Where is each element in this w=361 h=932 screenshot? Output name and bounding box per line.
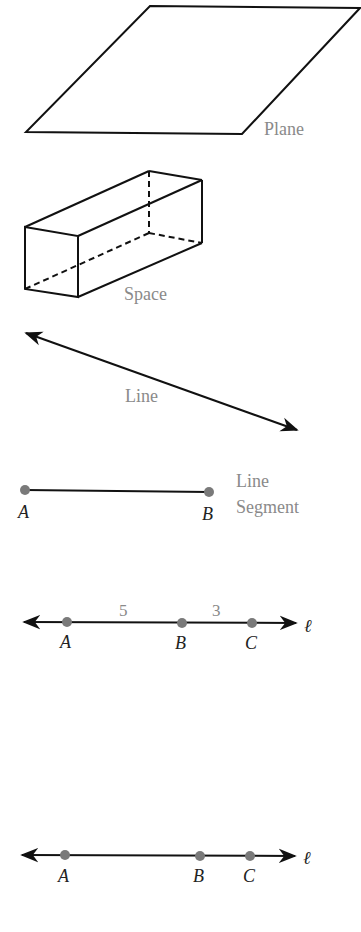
number-line-2: A B C ℓ: [22, 848, 311, 886]
nl2-point-a: A: [57, 866, 70, 886]
point-a-dot: [20, 485, 30, 495]
geometry-figures: Plane Space Line A B Line Segment 5 3 A: [0, 0, 361, 932]
segment-point-a: A: [17, 502, 30, 522]
plane-label: Plane: [264, 119, 304, 139]
distance-bc: 3: [212, 601, 221, 620]
segment-figure: A B Line Segment: [17, 471, 299, 524]
space-label: Space: [124, 284, 167, 304]
nl2-line-name: ℓ: [303, 848, 311, 868]
nl1-line-name: ℓ: [304, 616, 312, 636]
segment-point-b: B: [202, 504, 213, 524]
segment-label-2: Segment: [236, 497, 299, 517]
nl1-point-c: C: [245, 633, 258, 653]
space-figure: [25, 171, 202, 297]
segment-label-1: Line: [236, 471, 269, 491]
nl1-point-a: A: [59, 632, 72, 652]
nl2-point-b: B: [193, 866, 204, 886]
point-b-dot: [204, 487, 214, 497]
line-figure: Line: [26, 333, 297, 430]
distance-ab: 5: [119, 601, 128, 620]
nl2-point-c: C: [243, 866, 256, 886]
nl1-point-b: B: [175, 633, 186, 653]
plane-figure: Plane: [26, 6, 360, 139]
number-line-1: 5 3 A B C ℓ: [24, 601, 312, 653]
line-label: Line: [125, 386, 158, 406]
